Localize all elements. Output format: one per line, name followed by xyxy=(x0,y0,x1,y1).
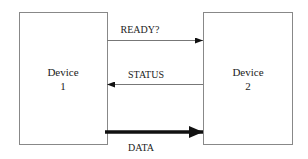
ready-signal: READY? xyxy=(107,24,203,41)
status-signal: STATUS xyxy=(107,69,203,85)
device-1-number: 1 xyxy=(60,80,66,92)
device-2-label: Device xyxy=(232,66,263,78)
handshake-diagram: Device 1 Device 2 READY? STATUS DATA xyxy=(0,0,308,159)
device-1-box: Device 1 xyxy=(20,13,108,145)
device-2-box: Device 2 xyxy=(204,13,293,145)
device-1-label: Device xyxy=(47,66,78,78)
device-2-number: 2 xyxy=(245,80,251,92)
ready-label: READY? xyxy=(121,24,160,35)
data-label: DATA xyxy=(128,142,155,153)
data-signal: DATA xyxy=(105,132,203,153)
status-label: STATUS xyxy=(128,69,164,80)
